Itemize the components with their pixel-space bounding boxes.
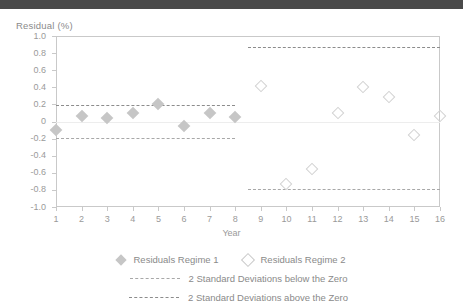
legend-item-regime-1[interactable]: Residuals Regime 1: [117, 254, 218, 265]
x-axis-tick: [414, 207, 415, 211]
y-axis-tick: [52, 190, 56, 191]
y-axis-tick-label: 0.4: [0, 83, 46, 92]
x-axis-tick: [184, 207, 185, 211]
y-axis-tick-text: 0.4: [33, 83, 46, 92]
x-axis-tick-text: 10: [276, 214, 296, 225]
x-axis-tick: [389, 207, 390, 211]
chart-legend: Residuals Regime 1 Residuals Regime 2 2 …: [0, 250, 463, 307]
x-axis-tick-text: 13: [353, 214, 373, 225]
sd-band-line: [248, 47, 440, 48]
y-axis-tick-text: 1.0: [33, 32, 46, 41]
x-axis-tick-text: 2: [72, 214, 92, 225]
x-axis-tick-label: 15: [404, 214, 424, 225]
x-axis-tick: [133, 207, 134, 211]
legend-item-regime-2[interactable]: Residuals Regime 2: [243, 254, 346, 265]
hollow-diamond-icon: [240, 252, 254, 266]
x-axis-tick-text: 11: [302, 214, 322, 225]
legend-row-below: 2 Standard Deviations below the Zero: [0, 269, 463, 288]
x-axis-tick-text: 12: [328, 214, 348, 225]
legend-item-sd-above[interactable]: 2 Standard Deviations above the Zero: [129, 292, 348, 303]
x-axis-tick-text: 7: [200, 214, 220, 225]
y-axis-tick: [52, 156, 56, 157]
y-axis-tick-label: -0.4: [0, 151, 46, 160]
x-axis-tick: [158, 207, 159, 211]
x-axis-tick: [440, 207, 441, 211]
y-axis-tick-text: -0.2: [30, 134, 46, 143]
legend-item-sd-below[interactable]: 2 Standard Deviations below the Zero: [130, 273, 348, 284]
x-axis-tick: [286, 207, 287, 211]
x-axis-tick-label: 1: [46, 214, 66, 225]
y-axis-tick: [52, 173, 56, 174]
y-axis-tick: [52, 70, 56, 71]
y-axis-tick-label: -0.6: [0, 168, 46, 177]
x-axis-tick-label: 7: [200, 214, 220, 225]
top-dark-bar: [0, 0, 463, 9]
x-axis-tick: [261, 207, 262, 211]
x-axis-tick-label: 16: [430, 214, 450, 225]
y-axis-tick: [52, 139, 56, 140]
y-axis-tick-label: 0.8: [0, 49, 46, 58]
y-axis-tick-text: -0.6: [30, 168, 46, 177]
sd-band-line: [248, 189, 440, 190]
sd-band-line: [56, 138, 235, 139]
x-axis-tick-label: 9: [251, 214, 271, 225]
zero-line: [56, 122, 440, 123]
x-axis-tick-label: 4: [123, 214, 143, 225]
x-axis-tick-text: 14: [379, 214, 399, 225]
residual-chart-figure: Residual (%) 1.00.80.60.40.20-0.2-0.4-0.…: [0, 9, 463, 308]
x-axis-tick: [210, 207, 211, 211]
x-axis-tick: [107, 207, 108, 211]
x-axis-tick: [56, 207, 57, 211]
x-axis-tick-label: 6: [174, 214, 194, 225]
x-axis-tick-label: 12: [328, 214, 348, 225]
x-axis-title: Year: [0, 228, 463, 238]
legend-label-sd-above: 2 Standard Deviations above the Zero: [188, 292, 348, 303]
x-axis-tick-label: 8: [225, 214, 245, 225]
y-axis-tick: [52, 87, 56, 88]
filled-diamond-icon: [116, 254, 127, 265]
x-axis-tick: [312, 207, 313, 211]
legend-label-regime-2: Residuals Regime 2: [261, 254, 346, 265]
x-axis-tick-label: 2: [72, 214, 92, 225]
y-axis-tick-text: 0: [41, 117, 46, 126]
y-axis-tick-text: -0.8: [30, 185, 46, 194]
x-axis-tick-label: 13: [353, 214, 373, 225]
y-axis-tick-text: 0.6: [33, 66, 46, 75]
x-axis-tick-text: 6: [174, 214, 194, 225]
y-axis-tick-text: -1.0: [30, 203, 46, 212]
x-axis-tick-text: 4: [123, 214, 143, 225]
x-axis-tick: [235, 207, 236, 211]
y-axis-tick-label: 0: [0, 117, 46, 126]
x-axis-tick: [363, 207, 364, 211]
sd-band-line: [56, 105, 235, 106]
y-axis-tick-label: 0.2: [0, 100, 46, 109]
long-dash-line-icon: [129, 297, 179, 298]
legend-label-regime-1: Residuals Regime 1: [133, 254, 218, 265]
x-axis-tick: [338, 207, 339, 211]
legend-row-markers: Residuals Regime 1 Residuals Regime 2: [0, 250, 463, 269]
x-axis-tick-label: 14: [379, 214, 399, 225]
x-axis-tick-text: 15: [404, 214, 424, 225]
x-axis-tick-text: 9: [251, 214, 271, 225]
y-axis-tick-text: 0.8: [33, 49, 46, 58]
x-axis-tick-text: 3: [97, 214, 117, 225]
x-axis-tick-text: 16: [430, 214, 450, 225]
y-axis-tick-label: 0.6: [0, 66, 46, 75]
y-axis-tick-text: 0.2: [33, 100, 46, 109]
legend-label-sd-below: 2 Standard Deviations below the Zero: [189, 273, 348, 284]
x-axis-tick-text: 8: [225, 214, 245, 225]
short-dash-line-icon: [130, 278, 180, 279]
y-axis-tick-label: -0.8: [0, 185, 46, 194]
x-axis-tick: [82, 207, 83, 211]
y-axis-tick-label: -0.2: [0, 134, 46, 143]
x-axis-tick-label: 10: [276, 214, 296, 225]
legend-row-above: 2 Standard Deviations above the Zero: [0, 288, 463, 307]
y-axis-tick-label: 1.0: [0, 32, 46, 41]
y-axis-title: Residual (%): [16, 20, 73, 31]
x-axis-tick-label: 3: [97, 214, 117, 225]
y-axis-tick-label: -1.0: [0, 203, 46, 212]
x-axis-tick-text: 1: [46, 214, 66, 225]
x-axis-tick-label: 11: [302, 214, 322, 225]
y-axis-tick: [52, 36, 56, 37]
y-axis-tick-text: -0.4: [30, 151, 46, 160]
